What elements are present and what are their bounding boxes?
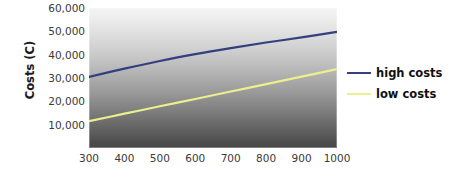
line-high-costs (89, 32, 337, 77)
legend-entry[interactable]: high costs (347, 62, 457, 83)
y-axis-title: Costs (C) (23, 20, 37, 120)
legend-swatch-icon (347, 93, 371, 95)
y-tick-label: 50,000 (41, 25, 85, 37)
legend-entry[interactable]: low costs (347, 83, 457, 104)
legend-label: high costs (376, 66, 442, 80)
plot-lines (89, 8, 337, 148)
chart-figure: Costs (C) 10,00020,00030,00040,00050,000… (0, 0, 457, 179)
y-tick-label: 10,000 (41, 119, 85, 131)
x-axis-tick-labels: 3004005006007008009001000 (0, 152, 457, 172)
plot-area (89, 8, 337, 148)
y-tick-label: 40,000 (41, 49, 85, 61)
legend-swatch-icon (347, 72, 371, 74)
legend-label: low costs (376, 87, 436, 101)
y-tick-label: 20,000 (41, 95, 85, 107)
x-tick-label: 1000 (314, 152, 360, 164)
line-low-costs (89, 69, 337, 121)
y-tick-label: 60,000 (41, 2, 85, 14)
y-tick-label: 30,000 (41, 72, 85, 84)
chart-legend: high costslow costs (347, 62, 457, 104)
